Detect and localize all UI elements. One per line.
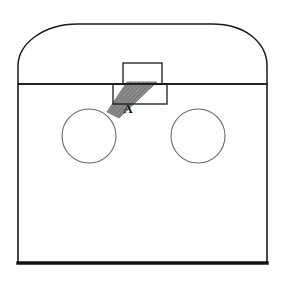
page-background (0, 0, 281, 281)
figure-root: A (0, 0, 281, 281)
upper-detail-rectangle (123, 63, 162, 84)
technical-drawing-canvas: A (0, 0, 281, 281)
label-a: A (123, 101, 133, 116)
